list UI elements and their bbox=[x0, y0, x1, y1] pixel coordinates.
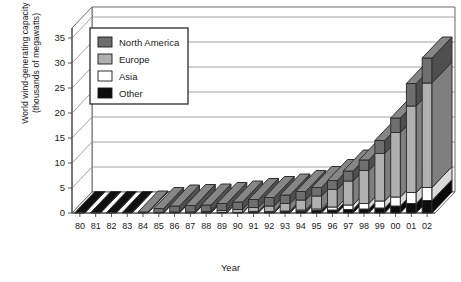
0.7 bbox=[375, 208, 385, 213]
legend-swatch-north-america bbox=[98, 37, 112, 47]
0.7 bbox=[406, 84, 416, 107]
0.7 bbox=[375, 201, 385, 208]
0.7 bbox=[391, 118, 401, 133]
x-tick-label-87: 87 bbox=[185, 221, 195, 231]
x-tick-label-89: 89 bbox=[217, 221, 227, 231]
0.7 bbox=[359, 204, 369, 210]
x-tick-label-02: 02 bbox=[422, 221, 432, 231]
y-tick-label-35: 35 bbox=[54, 32, 65, 43]
x-tick-label-00: 00 bbox=[391, 221, 401, 231]
0.7 bbox=[359, 160, 369, 171]
y-tick-label-5: 5 bbox=[60, 182, 65, 193]
0.7 bbox=[312, 188, 322, 197]
0.7 bbox=[406, 193, 416, 204]
y-tick-label-10: 10 bbox=[54, 157, 65, 168]
x-tick-label-83: 83 bbox=[122, 221, 132, 231]
x-tick-label-99: 99 bbox=[375, 221, 385, 231]
x-tick-label-86: 86 bbox=[170, 221, 180, 231]
x-tick-label-81: 81 bbox=[91, 221, 101, 231]
0.7 bbox=[343, 210, 353, 214]
0.7 bbox=[432, 62, 452, 188]
plot-area: 0510152025303580818283848586878889909192… bbox=[0, 0, 461, 282]
y-tick-label-30: 30 bbox=[54, 57, 65, 68]
0.7 bbox=[359, 171, 369, 204]
0.7 bbox=[391, 197, 401, 206]
0.7 bbox=[375, 154, 385, 202]
chart-figure: World wind-generating capacity (thousand… bbox=[0, 0, 461, 282]
0.7 bbox=[328, 181, 338, 190]
x-tick-label-94: 94 bbox=[296, 221, 306, 231]
x-tick-label-92: 92 bbox=[264, 221, 274, 231]
0.7 bbox=[391, 206, 401, 213]
0.7 bbox=[186, 206, 196, 213]
x-tick-label-98: 98 bbox=[359, 221, 369, 231]
0.7 bbox=[422, 58, 432, 83]
legend-label-europe: Europe bbox=[119, 54, 150, 65]
x-tick-label-93: 93 bbox=[280, 221, 290, 231]
0.7 bbox=[217, 204, 227, 211]
legend-swatch-asia bbox=[98, 71, 112, 81]
0.7 bbox=[406, 106, 416, 193]
0.7 bbox=[328, 190, 338, 208]
0.7 bbox=[296, 200, 306, 210]
x-tick-label-82: 82 bbox=[106, 221, 116, 231]
0.7 bbox=[422, 83, 432, 188]
x-tick-label-88: 88 bbox=[201, 221, 211, 231]
0.7 bbox=[170, 206, 180, 212]
legend-label-asia: Asia bbox=[119, 71, 138, 82]
y-tick-label-25: 25 bbox=[54, 82, 65, 93]
0.7 bbox=[343, 181, 353, 205]
0.7 bbox=[154, 209, 164, 213]
0.7 bbox=[312, 196, 322, 209]
x-tick-label-90: 90 bbox=[233, 221, 243, 231]
x-axis-title: Year bbox=[0, 262, 461, 273]
0.7 bbox=[280, 204, 290, 212]
0.7 bbox=[296, 192, 306, 201]
0.7 bbox=[264, 206, 274, 212]
y-tick-label-15: 15 bbox=[54, 132, 65, 143]
0.7 bbox=[359, 209, 369, 213]
y-tick-label-0: 0 bbox=[60, 207, 65, 218]
bar-group-02 bbox=[422, 37, 452, 213]
0.7 bbox=[375, 141, 385, 154]
y-tick-label-20: 20 bbox=[54, 107, 65, 118]
x-tick-label-96: 96 bbox=[327, 221, 337, 231]
legend-swatch-other bbox=[98, 88, 112, 98]
0.7 bbox=[343, 171, 353, 181]
x-tick-label-01: 01 bbox=[406, 221, 416, 231]
0.7 bbox=[422, 188, 432, 201]
x-tick-label-95: 95 bbox=[312, 221, 322, 231]
x-tick-label-97: 97 bbox=[343, 221, 353, 231]
legend-swatch-europe bbox=[98, 54, 112, 64]
0.7 bbox=[343, 205, 353, 210]
x-tick-label-91: 91 bbox=[248, 221, 258, 231]
x-tick-label-80: 80 bbox=[75, 221, 85, 231]
legend-label-other: Other bbox=[119, 88, 143, 99]
0.7 bbox=[249, 208, 259, 212]
0.7 bbox=[406, 204, 416, 214]
x-tick-label-85: 85 bbox=[154, 221, 164, 231]
0.7 bbox=[201, 205, 211, 212]
legend-label-north-america: North America bbox=[119, 37, 180, 48]
0.7 bbox=[249, 200, 259, 208]
0.7 bbox=[422, 201, 432, 214]
x-tick-label-84: 84 bbox=[138, 221, 148, 231]
0.7 bbox=[264, 198, 274, 207]
0.7 bbox=[391, 133, 401, 198]
0.7 bbox=[280, 195, 290, 204]
0.7 bbox=[233, 202, 243, 210]
